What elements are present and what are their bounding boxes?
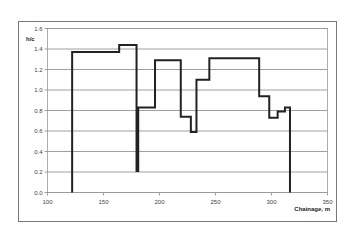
x-tick-label: 350 — [322, 199, 333, 205]
y-tick-label: 0.8 — [34, 108, 43, 114]
x-tick-label: 150 — [98, 199, 109, 205]
chart-frame — [19, 22, 337, 222]
x-tick-label: 100 — [42, 199, 53, 205]
y-tick-label: 0.2 — [34, 169, 43, 175]
x-tick-label: 200 — [154, 199, 165, 205]
x-tick-label: 300 — [266, 199, 277, 205]
y-tick-label: 0.4 — [34, 149, 43, 155]
y-tick-label: 1.0 — [34, 87, 43, 93]
x-tick-label: 250 — [210, 199, 221, 205]
y-tick-label: 1.6 — [34, 26, 43, 32]
y-tick-label: 1.4 — [34, 46, 43, 52]
step-chart: 0.00.20.40.60.81.01.21.41.6 100150200250… — [0, 0, 353, 234]
y-axis-title: h/c — [26, 36, 35, 42]
y-tick-label: 0.0 — [34, 190, 43, 196]
y-tick-label: 0.6 — [34, 128, 43, 134]
y-tick-label: 1.2 — [34, 67, 43, 73]
x-axis-title: Chainage, m — [294, 206, 330, 212]
